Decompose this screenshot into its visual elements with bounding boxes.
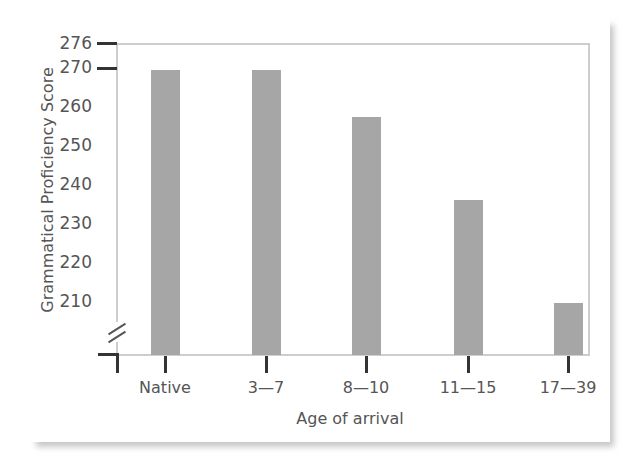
y-axis-line xyxy=(116,43,118,356)
y-axis-title: Grammatical Proficiency Score xyxy=(38,67,57,312)
x-tick xyxy=(365,356,368,373)
x-tick-label: 11—15 xyxy=(423,378,513,397)
x-axis-title: Age of arrival xyxy=(250,409,450,428)
bar-11-15 xyxy=(454,200,483,355)
x-tick-label: 3—7 xyxy=(221,378,311,397)
plot-frame-top xyxy=(117,43,590,45)
x-tick xyxy=(164,356,167,373)
bar-17-39 xyxy=(554,303,583,355)
bar-3-7 xyxy=(252,70,281,355)
x-tick-label: 17—39 xyxy=(523,378,613,397)
y-tick-276 xyxy=(97,42,117,45)
x-tick-label: 8—10 xyxy=(321,378,411,397)
axis-corner-tick-v xyxy=(116,353,119,373)
x-tick-label: Native xyxy=(120,378,210,397)
plot-frame-right xyxy=(588,43,590,356)
y-tick-270 xyxy=(97,67,117,70)
bar-8-10 xyxy=(352,117,381,355)
x-tick xyxy=(265,356,268,373)
y-tick-label: 276 xyxy=(50,33,92,53)
bar-native xyxy=(151,70,180,355)
x-tick xyxy=(567,356,570,373)
axis-corner-tick-h xyxy=(98,353,118,356)
x-tick xyxy=(467,356,470,373)
